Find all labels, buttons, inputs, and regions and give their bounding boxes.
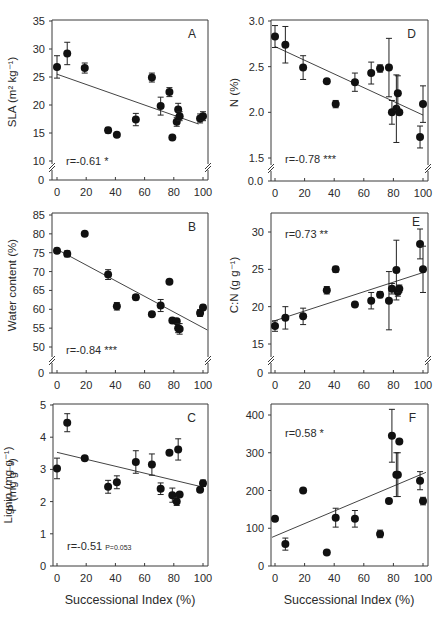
data-point bbox=[168, 133, 176, 141]
data-point bbox=[63, 42, 71, 64]
x-axis-title-left: Successional Index (%) bbox=[65, 593, 196, 607]
data-point bbox=[148, 73, 156, 82]
data-point bbox=[176, 491, 184, 499]
y-tick-label: 20 bbox=[252, 301, 264, 313]
x-tick-label: 80 bbox=[168, 186, 180, 198]
x-tick-label: 100 bbox=[414, 187, 432, 199]
data-point bbox=[148, 454, 156, 475]
data-point bbox=[281, 26, 289, 63]
marker bbox=[53, 464, 61, 472]
x-tick-label: 40 bbox=[109, 572, 121, 584]
marker bbox=[113, 302, 121, 310]
data-point bbox=[271, 321, 279, 331]
data-point bbox=[416, 126, 424, 148]
x-tick-label: 60 bbox=[358, 187, 370, 199]
x-tick-label: 40 bbox=[328, 572, 340, 584]
x-tick-label: 0 bbox=[54, 379, 60, 391]
panel-e-cn-ratio: 015202530020406080100C:N (g g⁻¹)Er=0.73 … bbox=[228, 213, 432, 391]
x-tick-label: 0 bbox=[272, 187, 278, 199]
y-tick-label: 1 bbox=[40, 528, 46, 540]
data-point bbox=[332, 265, 340, 273]
marker bbox=[299, 64, 307, 72]
y-tick-label: 30 bbox=[252, 226, 264, 238]
data-point bbox=[419, 86, 427, 123]
marker bbox=[367, 297, 375, 305]
y-tick-label: 50 bbox=[33, 341, 45, 353]
y-tick-label: 55 bbox=[33, 322, 45, 334]
marker bbox=[104, 126, 112, 134]
x-tick-label: 60 bbox=[138, 379, 150, 391]
marker bbox=[113, 131, 121, 139]
marker bbox=[376, 64, 384, 72]
correlation-stat: r=-0.61 * bbox=[66, 155, 109, 167]
data-point bbox=[332, 100, 340, 108]
marker bbox=[281, 540, 289, 548]
y-tick-label: 0 bbox=[40, 560, 46, 572]
data-point bbox=[395, 108, 403, 116]
marker bbox=[63, 49, 71, 57]
y-tick-label: 2.0 bbox=[249, 106, 264, 118]
x-tick-label: 40 bbox=[109, 186, 121, 198]
marker bbox=[351, 300, 359, 308]
marker bbox=[113, 478, 121, 486]
marker bbox=[323, 286, 331, 294]
data-point bbox=[351, 511, 359, 528]
data-point bbox=[416, 472, 424, 490]
data-point bbox=[385, 497, 393, 505]
x-tick-label: 0 bbox=[54, 186, 60, 198]
y-tick-label: 3 bbox=[40, 463, 46, 475]
y-axis-title: Water content (%) bbox=[6, 239, 18, 331]
y-tick-label: 2 bbox=[40, 496, 46, 508]
panel-d-nitrogen: 0.01.52.02.53.0020406080100N (%)Dr=-0.78… bbox=[228, 15, 432, 199]
marker bbox=[199, 479, 207, 487]
data-point bbox=[299, 56, 307, 80]
y-tick-label: 10 bbox=[33, 155, 45, 167]
x-tick-label: 80 bbox=[168, 379, 180, 391]
marker bbox=[419, 497, 427, 505]
marker bbox=[419, 265, 427, 273]
data-point bbox=[323, 286, 331, 294]
marker bbox=[176, 325, 184, 333]
marker bbox=[376, 291, 384, 299]
y-tick-label: 65 bbox=[33, 284, 45, 296]
marker bbox=[148, 461, 156, 469]
y-tick-label-zero: 0 bbox=[38, 174, 44, 186]
data-point bbox=[376, 530, 384, 538]
data-point bbox=[351, 73, 359, 91]
regression-line bbox=[57, 452, 203, 487]
marker bbox=[416, 477, 424, 485]
marker bbox=[271, 515, 279, 523]
data-point bbox=[174, 439, 182, 460]
data-point bbox=[63, 414, 71, 432]
regression-line bbox=[272, 272, 426, 322]
panel-letter: B bbox=[188, 220, 196, 234]
marker bbox=[165, 88, 173, 96]
correlation-stat: r=-0.51P=0.053 bbox=[67, 540, 132, 552]
data-point bbox=[165, 88, 173, 97]
marker bbox=[332, 514, 340, 522]
marker bbox=[157, 302, 165, 310]
marker bbox=[332, 100, 340, 108]
y-tick-label: 35 bbox=[33, 15, 45, 27]
marker bbox=[394, 471, 402, 479]
data-point bbox=[367, 62, 375, 84]
x-tick-label: 100 bbox=[194, 572, 212, 584]
regression-line bbox=[54, 248, 207, 330]
marker bbox=[132, 293, 140, 301]
y-axis-title: C:N (g g⁻¹) bbox=[228, 257, 240, 314]
marker bbox=[299, 487, 307, 495]
data-point bbox=[81, 230, 89, 238]
x-tick-label: 20 bbox=[298, 379, 310, 391]
y-tick-label: 300 bbox=[246, 447, 264, 459]
marker bbox=[385, 64, 393, 72]
data-point bbox=[394, 453, 402, 497]
marker bbox=[385, 297, 393, 305]
panel-c-phosphorus: 012345020406080100P (mg g⁻¹)Cr=-0.51P=0.… bbox=[6, 399, 212, 584]
panel-letter: E bbox=[412, 215, 420, 229]
marker bbox=[323, 548, 331, 556]
y-axis-title: N (%) bbox=[228, 78, 240, 108]
data-point bbox=[104, 126, 112, 134]
x-tick-label: 60 bbox=[358, 572, 370, 584]
marker bbox=[419, 100, 427, 108]
marker bbox=[165, 449, 173, 457]
